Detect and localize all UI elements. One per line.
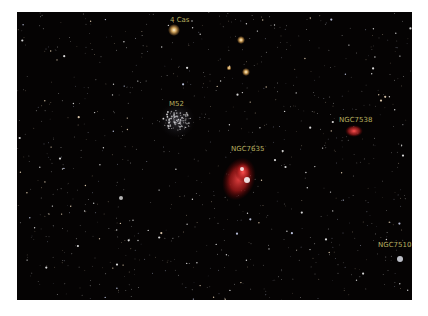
label-ngc7635: NGC7635 xyxy=(231,146,264,153)
label-ngc7538: NGC7538 xyxy=(339,117,372,124)
label-ngc7510: NGC7510 xyxy=(378,242,411,249)
star-field-photo: 4 Cas M52 NGC7635 NGC7538 NGC7510 xyxy=(17,12,412,300)
label-m52: M52 xyxy=(169,101,184,108)
star-field-graphic xyxy=(17,12,412,300)
label-4-cas: 4 Cas xyxy=(170,17,190,24)
